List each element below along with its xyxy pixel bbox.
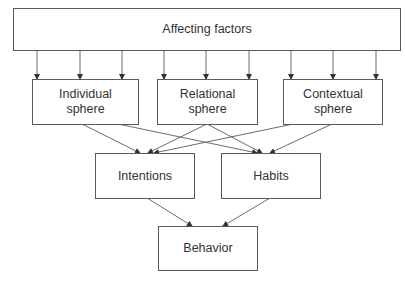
node-label: Relational sphere	[180, 87, 236, 117]
node-affecting-factors: Affecting factors	[13, 8, 401, 51]
arrow-intentions-behavior	[147, 198, 192, 226]
arrow-individual-habits	[118, 124, 257, 153]
arrow-relational-intentions	[148, 124, 207, 153]
arrow-contextual-habits	[270, 124, 332, 153]
node-behavior: Behavior	[158, 226, 258, 271]
arrow-individual-intentions	[82, 124, 140, 153]
node-contextual-sphere: Contextual sphere	[283, 79, 383, 125]
node-intentions: Intentions	[95, 153, 195, 199]
arrow-habits-behavior	[223, 198, 270, 226]
arrow-contextual-intentions	[154, 124, 293, 153]
node-label: Affecting factors	[162, 22, 251, 37]
node-label: Individual sphere	[59, 87, 112, 117]
node-label: Habits	[253, 169, 288, 184]
node-label: Intentions	[118, 169, 172, 184]
node-individual-sphere: Individual sphere	[32, 79, 139, 125]
node-habits: Habits	[221, 153, 321, 199]
node-relational-sphere: Relational sphere	[157, 79, 258, 125]
node-label: Behavior	[183, 241, 232, 256]
node-label: Contextual sphere	[303, 87, 363, 117]
